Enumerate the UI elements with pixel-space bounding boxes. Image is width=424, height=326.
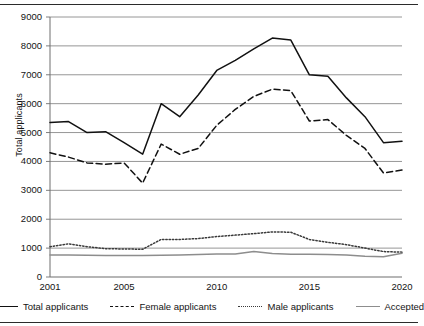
solid-line-swatch — [0, 303, 18, 311]
legend-item-label: Accepted — [385, 301, 424, 312]
y-tick-label: 1000 — [0, 243, 42, 252]
y-tick-label: 6000 — [0, 99, 42, 108]
top-border-rule — [0, 4, 418, 5]
x-tick-label: 2015 — [289, 281, 329, 292]
dotted-line-swatch — [238, 303, 262, 311]
y-tick-label: 8000 — [0, 41, 42, 50]
legend-item[interactable]: Female applicants — [110, 301, 216, 312]
y-tick-label: 0 — [0, 272, 42, 281]
x-tick-label: 2010 — [197, 281, 237, 292]
y-tick-label: 3000 — [0, 185, 42, 194]
x-tick-label: 2001 — [30, 281, 70, 292]
plot-area — [50, 17, 402, 277]
y-tick-label: 9000 — [0, 12, 42, 21]
y-tick-label: 4000 — [0, 156, 42, 165]
legend-item-label: Total applicants — [23, 301, 88, 312]
bottom-border-rule — [0, 322, 418, 323]
legend-item[interactable]: Total applicants — [0, 301, 88, 312]
x-tick-label: 2005 — [104, 281, 144, 292]
y-tick-label: 7000 — [0, 70, 42, 79]
y-tick-label: 2000 — [0, 214, 42, 223]
legend-item-label: Male applicants — [267, 301, 333, 312]
legend-item-label: Female applicants — [139, 301, 216, 312]
y-tick-label: 5000 — [0, 128, 42, 137]
series-line — [50, 252, 402, 257]
legend-item[interactable]: Male applicants — [238, 301, 333, 312]
x-tick-label: 2020 — [382, 281, 422, 292]
chart-legend: Total applicantsFemale applicantsMale ap… — [0, 301, 418, 312]
series-line — [50, 232, 402, 252]
dashed-line-swatch — [110, 303, 134, 311]
gray-line-swatch — [356, 303, 380, 311]
legend-item[interactable]: Accepted — [356, 301, 424, 312]
